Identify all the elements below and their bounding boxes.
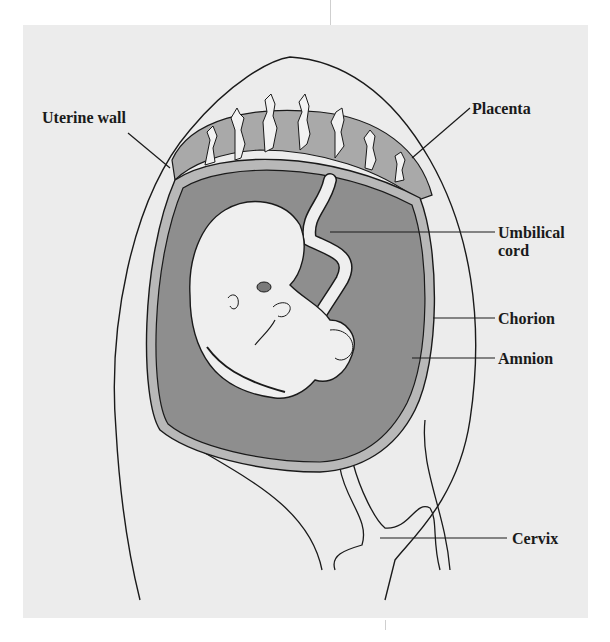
embryo-eye xyxy=(257,282,271,292)
cervix-outline-right xyxy=(424,420,450,570)
leader-placenta xyxy=(412,108,470,158)
label-chorion: Chorion xyxy=(498,310,555,328)
leader-uterine-wall xyxy=(128,133,170,168)
cervix-inner-right xyxy=(353,463,440,570)
label-umbilical-cord-line1: Umbilical xyxy=(498,224,565,242)
label-umbilical-cord: Umbilical cord xyxy=(498,224,565,260)
label-uterine-wall: Uterine wall xyxy=(42,109,126,127)
label-placenta: Placenta xyxy=(472,100,531,118)
label-cervix: Cervix xyxy=(512,530,558,548)
label-umbilical-cord-line2: cord xyxy=(498,242,565,260)
label-amnion: Amnion xyxy=(498,350,553,368)
